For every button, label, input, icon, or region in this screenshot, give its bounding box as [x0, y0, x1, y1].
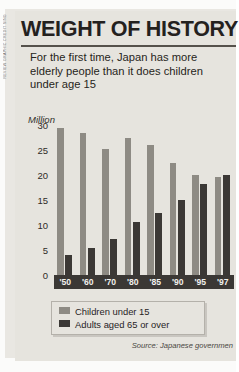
y-tick-label: 30 — [37, 120, 48, 131]
x-axis-band: '50'60'70'80'85'90'95'97 — [54, 275, 234, 289]
bar — [125, 138, 132, 276]
bar — [178, 200, 185, 275]
bar-group — [54, 125, 77, 275]
bar — [200, 184, 207, 276]
figure: REVIEW GRAPHIC CREDIT SING WEIGHT OF HIS… — [0, 0, 236, 372]
bar-series-group — [54, 125, 234, 275]
bar-group — [212, 125, 235, 275]
bar — [65, 255, 72, 276]
y-tick-label: 5 — [43, 245, 48, 256]
legend-item-children: Children under 15 — [59, 305, 150, 318]
bar-group — [77, 125, 100, 275]
bar — [215, 177, 222, 276]
y-tick-label: 15 — [37, 195, 48, 206]
x-tick-label: '90 — [167, 275, 190, 289]
bar — [170, 163, 177, 276]
title-divider — [21, 45, 236, 47]
legend-label-children: Children under 15 — [75, 306, 150, 317]
bar — [147, 145, 154, 275]
y-tick-label: 10 — [37, 220, 48, 231]
bar — [102, 149, 109, 275]
chart-panel: WEIGHT OF HISTORY For the first time, Ja… — [15, 11, 236, 361]
y-tick-label: 25 — [37, 145, 48, 156]
x-tick-label: '95 — [189, 275, 212, 289]
x-tick-label: '80 — [122, 275, 145, 289]
legend-swatch-adults-icon — [59, 320, 70, 327]
subtitle: For the first time, Japan has more elder… — [30, 51, 230, 92]
bar-group — [189, 125, 212, 275]
x-tick-label: '70 — [99, 275, 122, 289]
bar — [192, 175, 199, 275]
bar — [223, 175, 230, 275]
bar-group — [99, 125, 122, 275]
plot-area: 051015202530 '50'60'70'80'85'90'95'97 — [21, 125, 236, 277]
bar — [88, 248, 95, 275]
photo-credit-text: REVIEW GRAPHIC CREDIT SING — [3, 14, 7, 79]
y-tick-label: 0 — [43, 270, 48, 281]
source-note: Source: Japanese governmen — [132, 341, 233, 350]
bar — [155, 213, 162, 276]
bar — [110, 239, 117, 276]
y-tick-label: 20 — [37, 170, 48, 181]
x-tick-label: '50 — [54, 275, 77, 289]
bar-group — [144, 125, 167, 275]
bar — [80, 133, 87, 275]
page-edge-top — [0, 0, 236, 9]
legend-item-adults: Adults aged 65 or over — [59, 318, 169, 331]
page-title: WEIGHT OF HISTORY — [21, 17, 236, 42]
x-tick-label: '97 — [212, 275, 235, 289]
bar — [133, 222, 140, 275]
legend: Children under 15 Adults aged 65 or over — [51, 301, 205, 335]
x-tick-label: '60 — [77, 275, 100, 289]
bar-group — [122, 125, 145, 275]
x-tick-label: '85 — [144, 275, 167, 289]
legend-swatch-children-icon — [59, 307, 70, 314]
photo-credit: REVIEW GRAPHIC CREDIT SING — [3, 14, 15, 134]
legend-label-adults: Adults aged 65 or over — [75, 319, 169, 330]
bar — [57, 128, 64, 275]
bar-group — [167, 125, 190, 275]
